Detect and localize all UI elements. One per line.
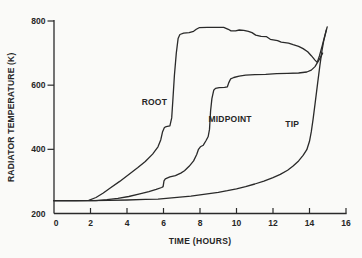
curve-label-root: ROOT	[142, 97, 168, 107]
y-tick-label: 600	[31, 80, 45, 90]
x-tick-label: 16	[341, 218, 351, 228]
y-tick-label: 800	[31, 16, 45, 26]
series-line-midpoint	[54, 53, 323, 201]
series-line-tip	[54, 27, 327, 201]
curve-label-midpoint: MIDPOINT	[209, 114, 253, 124]
radiator-temperature-chart: 2004006008000246810121416TIME (HOURS)RAD…	[0, 0, 362, 258]
x-tick-label: 14	[305, 218, 315, 228]
x-tick-label: 4	[125, 218, 130, 228]
y-tick-label: 200	[31, 209, 45, 219]
x-tick-label: 10	[232, 218, 242, 228]
x-tick-label: 6	[161, 218, 166, 228]
curve-label-tip: TIP	[285, 119, 299, 129]
x-tick-label: 8	[198, 218, 203, 228]
x-tick-label: 2	[88, 218, 93, 228]
y-tick-label: 400	[31, 144, 45, 154]
scanned-figure: 2004006008000246810121416TIME (HOURS)RAD…	[0, 0, 362, 258]
x-tick-label: 0	[54, 218, 59, 228]
y-axis-title: RADIATOR TEMPERATURE (K)	[6, 53, 16, 182]
x-axis-title: TIME (HOURS)	[169, 236, 232, 246]
x-tick-label: 12	[268, 218, 278, 228]
series-line-root	[54, 27, 326, 200]
